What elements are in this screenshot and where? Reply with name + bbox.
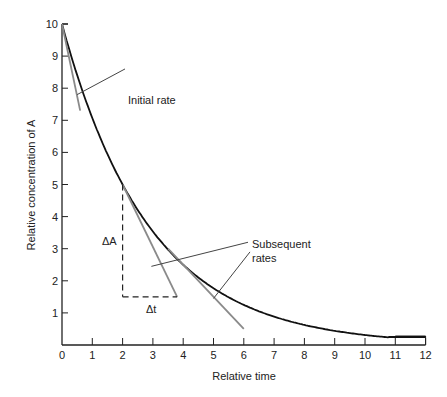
x-tick-label: 0 xyxy=(59,349,65,361)
x-tick-label: 9 xyxy=(332,349,338,361)
y-tick-label: 8 xyxy=(52,82,58,94)
axes xyxy=(62,24,426,345)
initial-rate-label: Initial rate xyxy=(128,94,176,106)
y-tick-label: 5 xyxy=(52,179,58,191)
y-tick-label: 7 xyxy=(52,114,58,126)
x-tick-label: 6 xyxy=(241,349,247,361)
concentration-curve xyxy=(62,24,426,337)
y-tick-label: 6 xyxy=(52,146,58,158)
y-axis-ticks: 12345678910 xyxy=(46,18,68,319)
x-tick-label: 7 xyxy=(271,349,277,361)
x-axis-ticks: 0123456789101112 xyxy=(59,338,432,361)
rates-label: rates xyxy=(252,252,277,264)
subsequent-label: Subsequent xyxy=(252,238,311,250)
tangent-lines xyxy=(62,24,244,329)
tangent-line xyxy=(123,185,178,297)
y-tick-label: 2 xyxy=(52,275,58,287)
y-axis-title: Relative concentration of A xyxy=(25,119,37,251)
y-tick-label: 9 xyxy=(52,50,58,62)
x-tick-label: 11 xyxy=(390,349,401,361)
delta-a-label: ΔA xyxy=(102,235,117,247)
y-tick-label: 1 xyxy=(52,307,58,319)
x-tick-label: 3 xyxy=(150,349,156,361)
x-tick-label: 5 xyxy=(210,349,216,361)
x-tick-label: 2 xyxy=(120,349,126,361)
decay-chart: 0123456789101112 12345678910 Initial rat… xyxy=(0,0,447,397)
y-tick-label: 4 xyxy=(52,211,58,223)
x-tick-label: 4 xyxy=(180,349,186,361)
x-axis-title: Relative time xyxy=(212,370,276,382)
tangent-line xyxy=(62,24,80,111)
y-tick-label: 10 xyxy=(46,18,58,30)
delta-t-label: Δt xyxy=(146,303,156,315)
tangent-line xyxy=(168,249,244,329)
x-tick-label: 8 xyxy=(301,349,307,361)
x-tick-label: 10 xyxy=(359,349,371,361)
y-tick-label: 3 xyxy=(52,243,58,255)
x-tick-label: 1 xyxy=(89,349,95,361)
x-tick-label: 12 xyxy=(419,349,431,361)
